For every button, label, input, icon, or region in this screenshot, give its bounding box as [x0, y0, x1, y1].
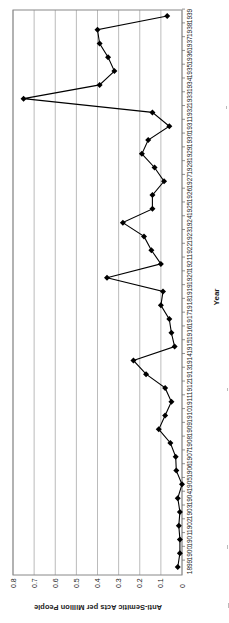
x-tick-label: 1905: [186, 477, 193, 492]
y-tick-label: 0.5: [73, 578, 80, 588]
data-point-marker: [158, 302, 164, 308]
x-tick-label: 1922: [186, 243, 193, 258]
data-point-marker: [168, 399, 174, 405]
y-tick-label: 0.6: [52, 578, 59, 588]
data-point-marker: [120, 220, 126, 226]
x-axis-label: Year: [212, 289, 221, 306]
x-tick-label: 1914: [186, 353, 193, 368]
y-axis-ticks: 00.10.20.30.40.50.60.70.8: [10, 578, 186, 588]
x-tick-label: 1911: [186, 394, 193, 408]
data-point-marker: [173, 468, 179, 474]
data-point-marker: [168, 330, 174, 336]
scan-artifact: [228, 603, 229, 608]
data-point-marker: [145, 137, 151, 143]
data-point-marker: [105, 54, 111, 60]
x-tick-label: 1929: [186, 146, 193, 161]
data-point-marker: [166, 316, 172, 322]
x-tick-label: 1916: [186, 325, 193, 340]
x-tick-label: 1912: [186, 380, 193, 395]
x-tick-label: 1899: [186, 559, 193, 574]
data-point-marker: [149, 206, 155, 212]
y-tick-label: 0.1: [157, 578, 164, 588]
data-point-marker: [175, 564, 181, 570]
x-tick-label: 1930: [186, 132, 193, 147]
y-tick-label: 0.7: [31, 578, 38, 588]
data-point-marker: [173, 454, 179, 460]
x-tick-label: 1915: [186, 339, 193, 354]
x-tick-label: 1918: [186, 298, 193, 313]
data-point-marker: [158, 261, 164, 267]
x-tick-label: 1926: [186, 187, 193, 202]
x-tick-label: 1913: [186, 367, 193, 382]
scan-artifact: [227, 545, 228, 549]
x-axis-ticks: 1899190019011902190319041905190619071908…: [182, 8, 193, 574]
x-tick-label: 1908: [186, 435, 193, 450]
x-tick-label: 1933: [186, 91, 193, 106]
x-tick-label: 1935: [186, 63, 193, 78]
gridlines: [13, 10, 182, 575]
x-tick-label: 1932: [186, 105, 193, 120]
data-point-marker: [21, 96, 27, 102]
x-tick-label: 1924: [186, 215, 193, 230]
data-point-marker: [141, 233, 147, 239]
x-tick-label: 1901: [186, 532, 193, 547]
x-tick-label: 1937: [186, 36, 193, 51]
x-tick-label: 1928: [186, 160, 193, 175]
y-axis-label: Anti-Semitic Acts per Million People: [34, 603, 162, 612]
x-tick-label: 1920: [186, 270, 193, 285]
x-tick-label: 1921: [186, 256, 193, 271]
x-tick-label: 1910: [186, 408, 193, 423]
x-tick-label: 1938: [186, 22, 193, 37]
data-point-marker: [179, 481, 185, 487]
y-tick-label: 0.4: [94, 578, 101, 588]
data-point-marker: [95, 27, 101, 33]
line-chart: 00.10.20.30.40.50.60.70.8 18991900190119…: [0, 0, 229, 623]
x-tick-label: 1923: [186, 229, 193, 244]
x-tick-label: 1919: [186, 284, 193, 299]
data-line: [24, 16, 182, 567]
data-point-marker: [175, 495, 181, 501]
x-tick-label: 1903: [186, 504, 193, 519]
x-tick-label: 1931: [186, 119, 193, 134]
data-markers: [21, 13, 185, 570]
chart-container: 00.10.20.30.40.50.60.70.8 18991900190119…: [0, 0, 229, 623]
x-tick-label: 1917: [186, 311, 193, 326]
x-tick-label: 1939: [186, 8, 193, 23]
x-tick-label: 1927: [186, 174, 193, 189]
x-tick-label: 1900: [186, 546, 193, 561]
y-tick-label: 0: [179, 584, 186, 588]
y-tick-label: 0.2: [136, 578, 143, 588]
x-tick-label: 1902: [186, 518, 193, 533]
x-tick-label: 1936: [186, 50, 193, 65]
x-tick-label: 1925: [186, 201, 193, 216]
scan-artifact: [227, 388, 228, 391]
data-point-marker: [162, 412, 168, 418]
scan-artifact: [226, 106, 227, 109]
x-tick-label: 1906: [186, 463, 193, 478]
data-point-marker: [176, 523, 182, 529]
data-point-marker: [104, 275, 110, 281]
x-tick-label: 1907: [186, 449, 193, 464]
data-point-marker: [164, 13, 170, 19]
x-tick-label: 1934: [186, 77, 193, 92]
data-point-marker: [172, 344, 178, 350]
y-tick-label: 0.3: [115, 578, 122, 588]
x-tick-label: 1904: [186, 491, 193, 506]
y-tick-label: 0.8: [10, 578, 17, 588]
x-tick-label: 1909: [186, 422, 193, 437]
